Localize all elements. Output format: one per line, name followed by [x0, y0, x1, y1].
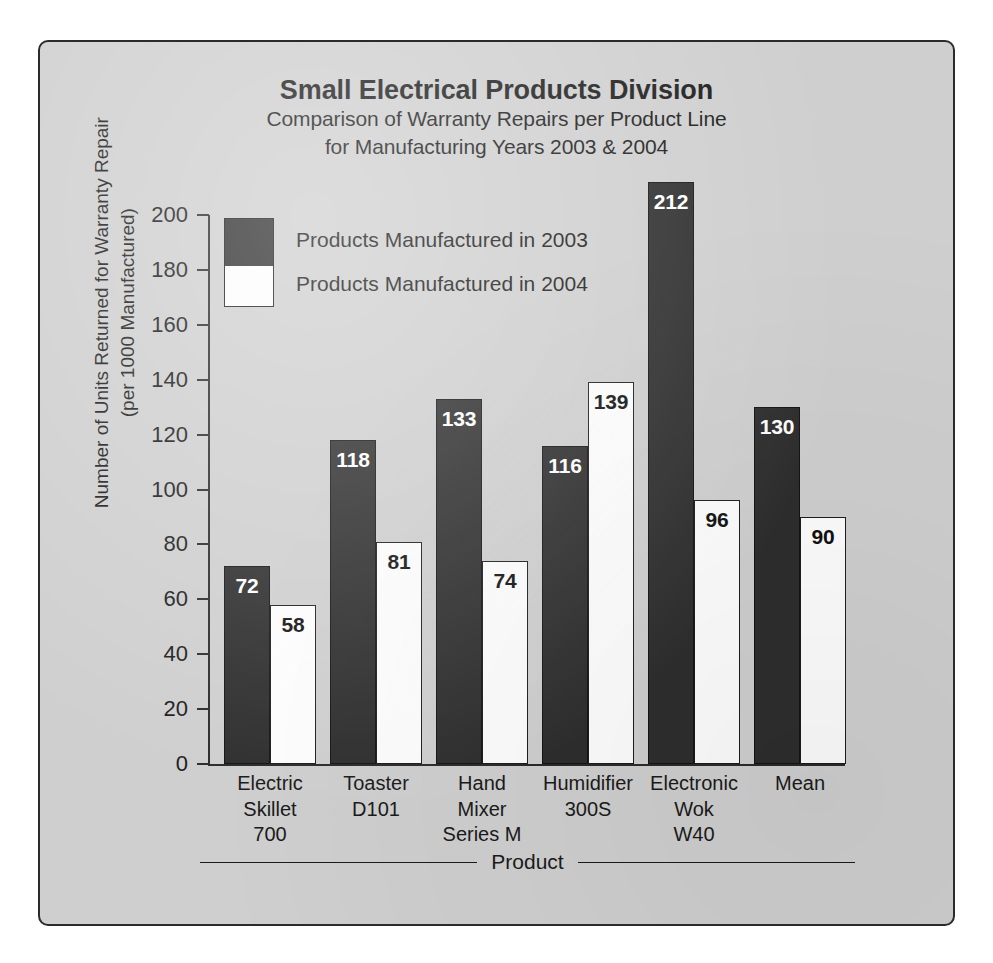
- x-axis-label-5: Mean: [740, 771, 860, 797]
- legend-label-2004: Products Manufactured in 2004: [296, 272, 588, 296]
- bar-value-label: 90: [801, 525, 845, 549]
- x-axis-label-line: D101: [316, 797, 436, 823]
- bar-value-label: 58: [271, 613, 315, 637]
- x-axis-label-line: Wok: [634, 797, 754, 823]
- bar-value-label: 130: [755, 415, 799, 439]
- x-axis-label-2: HandMixerSeries M: [422, 771, 542, 848]
- y-axis-tick-label-160: 160: [151, 312, 188, 338]
- y-axis-tick-180: 180: [197, 269, 209, 271]
- x-axis-label-line: Electronic: [634, 771, 754, 797]
- x-axis-line: [208, 764, 845, 766]
- bar-value-label: 72: [225, 574, 269, 598]
- legend-swatch: [224, 218, 274, 307]
- y-axis-tick-120: 120: [197, 434, 209, 436]
- bar-value-label: 81: [377, 550, 421, 574]
- y-axis-tick-60: 60: [197, 598, 209, 600]
- y-axis-title-line-1: Number of Units Returned for Warranty Re…: [89, 63, 115, 563]
- y-axis-tick-label-0: 0: [176, 751, 188, 777]
- bar-value-label: 133: [437, 407, 481, 431]
- bar-2003-3[interactable]: 116: [542, 446, 588, 764]
- bar-2003-0[interactable]: 72: [224, 566, 270, 764]
- x-axis-label-line: Hand: [422, 771, 542, 797]
- bar-2003-2[interactable]: 133: [436, 399, 482, 764]
- bar-2003-5[interactable]: 130: [754, 407, 800, 764]
- x-axis-title: Product: [491, 850, 563, 874]
- bar-2004-2[interactable]: 74: [482, 561, 528, 764]
- y-axis-tick-label-60: 60: [164, 586, 188, 612]
- y-axis-title: Number of Units Returned for Warranty Re…: [89, 63, 140, 563]
- legend-label-2003: Products Manufactured in 2003: [296, 228, 588, 252]
- x-axis-title-rule-right: [578, 862, 855, 863]
- x-axis-label-line: Mixer: [422, 797, 542, 823]
- bar-2004-1[interactable]: 81: [376, 542, 422, 764]
- y-axis-tick-label-20: 20: [164, 696, 188, 722]
- y-axis-tick-100: 100: [197, 489, 209, 491]
- y-axis-tick-140: 140: [197, 379, 209, 381]
- y-axis-tick-label-180: 180: [151, 257, 188, 283]
- bar-value-label: 212: [649, 190, 693, 214]
- bar-value-label: 96: [695, 508, 739, 532]
- bar-value-label: 139: [589, 390, 633, 414]
- x-axis-label-0: ElectricSkillet700: [210, 771, 330, 848]
- bar-2004-0[interactable]: 58: [270, 605, 316, 764]
- bar-2003-4[interactable]: 212: [648, 182, 694, 764]
- y-axis-tick-160: 160: [197, 324, 209, 326]
- y-axis-line: [208, 215, 210, 766]
- x-axis-label-line: Series M: [422, 822, 542, 848]
- plot-area: 200180160140120100806040200 Number of Un…: [40, 42, 955, 926]
- x-axis-title-rule-left: [200, 862, 477, 863]
- chart-panel: Small Electrical Products Division Compa…: [38, 40, 955, 926]
- y-axis-tick-0: 0: [197, 763, 209, 765]
- y-axis-tick-label-120: 120: [151, 422, 188, 448]
- x-axis-label-line: 700: [210, 822, 330, 848]
- y-axis-tick-label-100: 100: [151, 477, 188, 503]
- bar-value-label: 116: [543, 454, 587, 478]
- x-axis-label-line: Mean: [740, 771, 860, 797]
- y-axis-tick-label-40: 40: [164, 641, 188, 667]
- legend-swatch-2003: [225, 219, 273, 266]
- y-axis-tick-40: 40: [197, 653, 209, 655]
- bar-2004-4[interactable]: 96: [694, 500, 740, 764]
- x-axis-label-line: Humidifier: [528, 771, 648, 797]
- bar-2004-3[interactable]: 139: [588, 382, 634, 764]
- x-axis-label-3: Humidifier300S: [528, 771, 648, 822]
- x-axis-label-line: 300S: [528, 797, 648, 823]
- x-axis-label-line: W40: [634, 822, 754, 848]
- x-axis-label-1: ToasterD101: [316, 771, 436, 822]
- y-axis-tick-label-200: 200: [151, 202, 188, 228]
- x-axis-title-row: Product: [200, 850, 855, 874]
- bar-2004-5[interactable]: 90: [800, 517, 846, 764]
- bar-2003-1[interactable]: 118: [330, 440, 376, 764]
- x-axis-label-line: Electric: [210, 771, 330, 797]
- y-axis-tick-80: 80: [197, 543, 209, 545]
- y-axis-tick-label-140: 140: [151, 367, 188, 393]
- y-axis-tick-20: 20: [197, 708, 209, 710]
- bar-value-label: 118: [331, 448, 375, 472]
- y-axis-tick-label-80: 80: [164, 531, 188, 557]
- x-axis-label-line: Toaster: [316, 771, 436, 797]
- x-axis-label-line: Skillet: [210, 797, 330, 823]
- y-axis-tick-200: 200: [197, 214, 209, 216]
- y-axis-title-line-2: (per 1000 Manufactured): [115, 63, 141, 563]
- bar-value-label: 74: [483, 569, 527, 593]
- x-axis-label-4: ElectronicWokW40: [634, 771, 754, 848]
